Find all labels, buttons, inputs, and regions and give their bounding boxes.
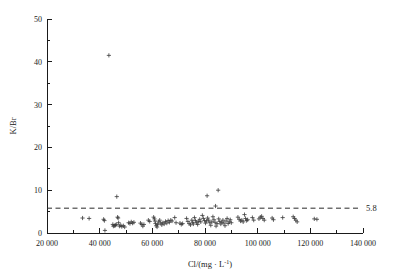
y-tick-label: 0 xyxy=(38,229,42,238)
x-tick-label: 80 000 xyxy=(194,239,216,248)
y-tick-label: 30 xyxy=(34,101,42,110)
y-tick-label: 50 xyxy=(34,15,42,24)
reference-line-label: 5.8 xyxy=(366,203,377,213)
x-tick-label: 120 000 xyxy=(297,239,323,248)
x-tick-label: 20 000 xyxy=(36,239,58,248)
x-tick-label: 100 000 xyxy=(245,239,271,248)
y-tick-label: 10 xyxy=(34,186,42,195)
y-tick-label: 20 xyxy=(34,143,42,152)
x-tick-label: 40 000 xyxy=(89,239,111,248)
x-tick-label: 60 000 xyxy=(141,239,163,248)
figure-container: 20 00040 00060 00080 000100 000120 00014… xyxy=(0,0,395,279)
plot-background xyxy=(0,0,395,279)
scatter-plot: 20 00040 00060 00080 000100 000120 00014… xyxy=(0,0,395,279)
x-tick-label: 140 000 xyxy=(350,239,376,248)
y-axis-title: K/Br xyxy=(8,117,18,134)
y-tick-label: 40 xyxy=(34,58,42,67)
